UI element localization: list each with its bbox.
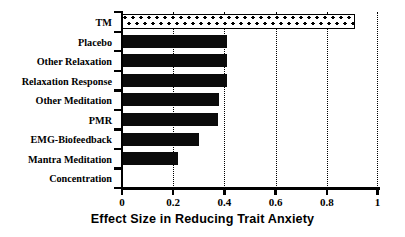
bar-chart-figure: TM Placebo Other Relaxation Relaxation R…: [0, 0, 405, 237]
bar-row-other-relaxation: [122, 51, 378, 71]
bar-relaxation-response: [122, 74, 227, 87]
category-label-relaxation-response: Relaxation Response: [22, 77, 112, 87]
bar-row-other-meditation: [122, 90, 378, 110]
bar-tm: [122, 14, 355, 29]
x-tick-label-0.4: 0.4: [218, 196, 232, 208]
bar-row-concentration: [122, 168, 378, 188]
bar-emg-biofeedback: [122, 133, 199, 146]
category-label-mantra-meditation: Mantra Meditation: [28, 155, 112, 165]
x-axis-line: [121, 187, 380, 190]
category-label-pmr: PMR: [89, 116, 112, 126]
x-axis-tick: [121, 188, 123, 195]
bar-row-tm: [122, 12, 378, 32]
bar-row-relaxation-response: [122, 71, 378, 91]
plot-area: [122, 12, 378, 188]
x-axis-tick: [376, 188, 378, 195]
x-tick-label-0.8: 0.8: [320, 196, 334, 208]
bar-pmr: [122, 113, 218, 126]
bar-placebo: [122, 35, 227, 48]
category-label-emg-biofeedback: EMG-Biofeedback: [31, 135, 113, 145]
bar-row-emg-biofeedback: [122, 129, 378, 149]
category-label-placebo: Placebo: [78, 38, 112, 48]
x-tick-label-1: 1: [375, 196, 381, 208]
bar-row-mantra-meditation: [122, 149, 378, 169]
x-axis-tick: [274, 188, 276, 195]
x-axis-title: Effect Size in Reducing Trait Anxiety: [0, 212, 405, 226]
bar-other-meditation: [122, 93, 219, 106]
category-label-tm: TM: [96, 18, 112, 28]
category-label-other-meditation: Other Meditation: [36, 96, 113, 106]
x-axis-tick: [326, 188, 328, 195]
x-tick-label-0.6: 0.6: [269, 196, 283, 208]
x-axis-tick: [223, 188, 225, 195]
category-label-concentration: Concentration: [49, 174, 112, 184]
bar-row-pmr: [122, 110, 378, 130]
x-axis-tick: [172, 188, 174, 195]
x-tick-label-0: 0: [119, 196, 125, 208]
x-tick-label-0.2: 0.2: [166, 196, 180, 208]
y-axis-line: [121, 11, 124, 189]
bar-mantra-meditation: [122, 152, 178, 165]
bar-other-relaxation: [122, 54, 227, 67]
bar-row-placebo: [122, 32, 378, 52]
category-label-other-relaxation: Other Relaxation: [37, 57, 112, 67]
